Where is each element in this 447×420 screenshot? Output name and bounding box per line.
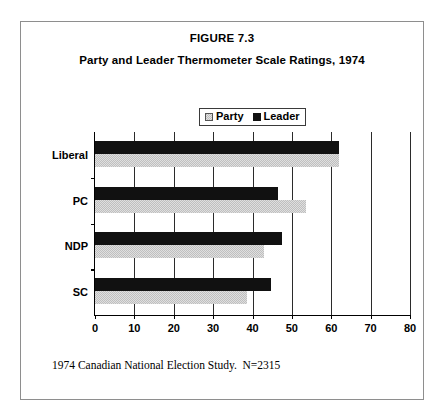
chart-legend: Party Leader <box>199 108 306 126</box>
x-axis-label: 60 <box>325 322 337 334</box>
figure-title: Party and Leader Thermometer Scale Ratin… <box>21 54 423 66</box>
figure-container: FIGURE 7.3 Party and Leader Thermometer … <box>20 21 424 400</box>
x-axis-tick <box>410 315 411 319</box>
gridline <box>410 132 411 315</box>
bar-party-liberal <box>95 154 339 167</box>
y-axis-tick <box>91 178 95 180</box>
x-axis-tick <box>331 315 332 319</box>
y-axis-tick <box>91 269 95 271</box>
legend-label-leader: Leader <box>264 111 300 122</box>
y-axis-label-pc: PC <box>73 195 88 207</box>
bar-leader-pc <box>95 187 278 200</box>
y-axis-label-sc: SC <box>73 286 88 298</box>
legend-item-party: Party <box>205 111 244 122</box>
x-axis-label: 0 <box>92 322 98 334</box>
x-axis-label: 40 <box>246 322 258 334</box>
x-axis-label: 20 <box>168 322 180 334</box>
bar-party-sc <box>95 291 247 304</box>
y-axis-label-ndp: NDP <box>65 240 88 252</box>
gridline <box>371 132 372 315</box>
bar-party-pc <box>95 200 306 213</box>
y-axis-tick <box>91 224 95 226</box>
legend-label-party: Party <box>216 111 244 122</box>
legend-item-leader: Leader <box>253 111 300 122</box>
plot-area: 01020304050607080LiberalPCNDPSC <box>94 132 410 316</box>
x-axis-tick <box>371 315 372 319</box>
x-axis-label: 70 <box>365 322 377 334</box>
x-axis-tick <box>213 315 214 319</box>
figure-number: FIGURE 7.3 <box>21 32 423 44</box>
leader-swatch-icon <box>253 113 261 121</box>
x-axis-tick <box>95 315 96 319</box>
x-axis-label: 10 <box>128 322 140 334</box>
y-axis-label-liberal: Liberal <box>52 149 88 161</box>
bar-party-ndp <box>95 245 264 258</box>
x-axis-label: 30 <box>207 322 219 334</box>
x-axis-tick <box>253 315 254 319</box>
bar-leader-liberal <box>95 141 339 154</box>
x-axis-tick <box>134 315 135 319</box>
bar-leader-ndp <box>95 232 282 245</box>
x-axis-label: 50 <box>286 322 298 334</box>
x-axis-label: 80 <box>404 322 416 334</box>
bar-leader-sc <box>95 278 271 291</box>
figure-source-note: 1974 Canadian National Election Study. N… <box>52 359 280 371</box>
x-axis-tick <box>174 315 175 319</box>
x-axis-tick <box>292 315 293 319</box>
party-swatch-icon <box>205 113 213 121</box>
